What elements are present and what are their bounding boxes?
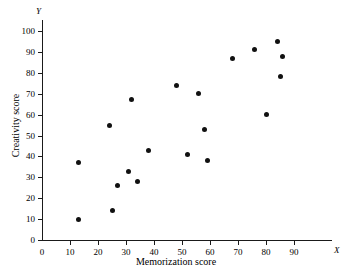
data-point: [107, 123, 112, 128]
y-axis-title: Creativity score: [10, 56, 21, 196]
data-point: [76, 217, 81, 222]
data-point: [202, 127, 207, 132]
data-point: [275, 39, 280, 44]
data-point: [278, 74, 283, 79]
data-point: [129, 97, 134, 102]
data-point: [264, 112, 269, 117]
x-axis-title: Memorization score: [0, 256, 352, 267]
data-point: [76, 160, 81, 165]
data-point: [196, 91, 201, 96]
data-point: [174, 83, 179, 88]
data-point: [126, 169, 131, 174]
data-point: [146, 148, 151, 153]
data-point: [115, 183, 120, 188]
data-point: [230, 56, 235, 61]
data-point: [135, 179, 140, 184]
scatter-plot: Y X 0102030405060708090100 0102030405060…: [0, 0, 352, 271]
data-point: [280, 54, 285, 59]
data-point: [110, 208, 115, 213]
data-points-layer: [0, 0, 352, 271]
data-point: [205, 158, 210, 163]
data-point: [185, 152, 190, 157]
data-point: [252, 47, 257, 52]
